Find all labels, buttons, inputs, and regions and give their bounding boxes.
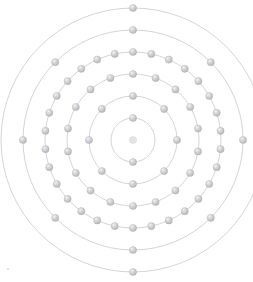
electron [207,59,214,66]
electron [129,92,136,99]
electron [187,103,194,110]
electron [129,114,136,121]
electron [52,214,59,221]
electron [72,169,79,176]
electron [148,50,155,57]
electron [195,78,202,85]
electron [181,208,188,215]
electron [165,217,172,224]
electron [64,125,71,132]
electron [94,56,101,63]
electron [194,148,201,155]
nucleus-core [129,136,136,143]
electron [19,136,26,143]
electron [42,146,49,153]
electron [161,168,168,175]
electron [213,109,220,116]
electron [52,59,59,66]
electron [53,180,60,187]
electron [129,26,136,33]
electron [213,164,220,171]
electron [129,202,136,209]
electron [53,92,60,99]
electron [152,74,159,81]
electron [87,86,94,93]
electron [206,180,213,187]
electron [107,74,114,81]
electron [42,127,49,134]
electron [129,224,136,231]
electron [87,187,94,194]
electron [187,169,194,176]
electron [72,103,79,110]
electron [85,136,92,143]
electron [129,180,136,187]
electron [78,208,85,215]
electron [94,217,101,224]
electron [195,195,202,202]
bohr-model-figure: E 2.8. [0,0,253,282]
electron [107,198,114,205]
shell-ring-p [1,8,253,272]
electron [206,92,213,99]
corner-speck [7,268,9,270]
electron [98,168,105,175]
electron [129,48,136,55]
electron [207,214,214,221]
electron [165,56,172,63]
electron [129,158,136,165]
electron [129,246,136,253]
electron [152,198,159,205]
electron [98,105,105,112]
electron [46,164,53,171]
electron [129,70,136,77]
electron [217,127,224,134]
electron [111,222,118,229]
electron [173,136,180,143]
electron [129,4,136,11]
nucleus [129,136,136,143]
electron [46,109,53,116]
electron [181,65,188,72]
electron [194,125,201,132]
electron [172,187,179,194]
electron [78,65,85,72]
electron [64,148,71,155]
electron [64,195,71,202]
electron [148,222,155,229]
electron [172,86,179,93]
electron [239,136,246,143]
atom-diagram-canvas [0,0,253,282]
electron [111,50,118,57]
electron [217,146,224,153]
electron-shell-rings [1,8,253,272]
electron [129,268,136,275]
electron [64,78,71,85]
electron [161,105,168,112]
